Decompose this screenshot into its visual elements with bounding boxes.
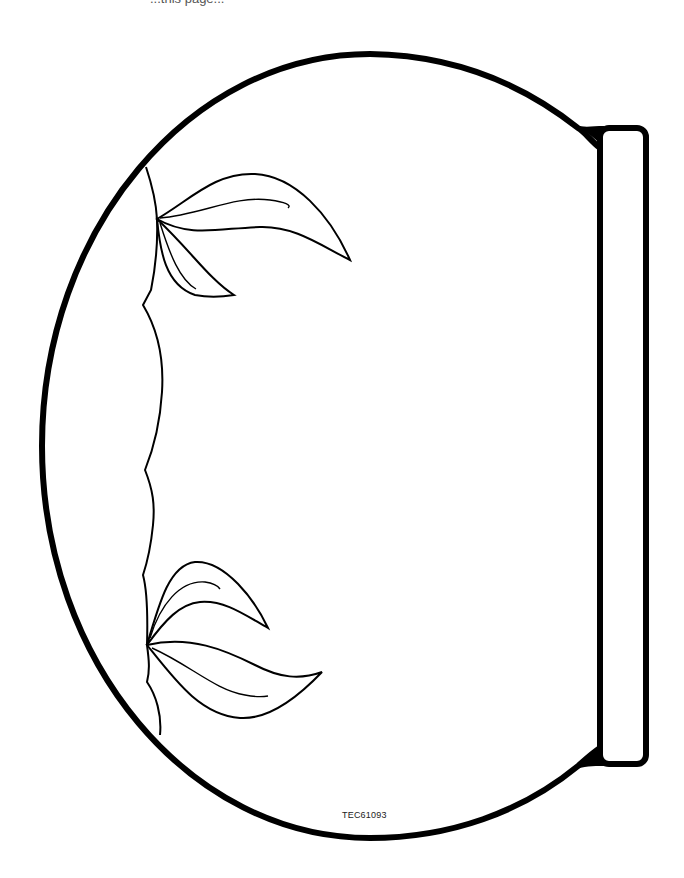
- product-code: TEC61093: [342, 810, 387, 820]
- bowl-outline: [42, 54, 600, 838]
- upper-plant-big-leaf: [157, 174, 350, 260]
- bowl-rim: [600, 128, 646, 764]
- upper-plant-big-leaf-vein: [160, 199, 289, 218]
- upper-plant: [157, 174, 350, 297]
- lower-plant-top-leaf-vein: [150, 582, 220, 638]
- upper-plant-small-leaf-vein: [160, 223, 196, 289]
- lower-plant-top-leaf: [147, 562, 268, 645]
- fishbowl-illustration: [0, 0, 684, 878]
- lower-plant-bottom-leaf: [147, 642, 322, 718]
- lower-plant: [147, 562, 322, 718]
- seaweed-divider: [143, 167, 162, 735]
